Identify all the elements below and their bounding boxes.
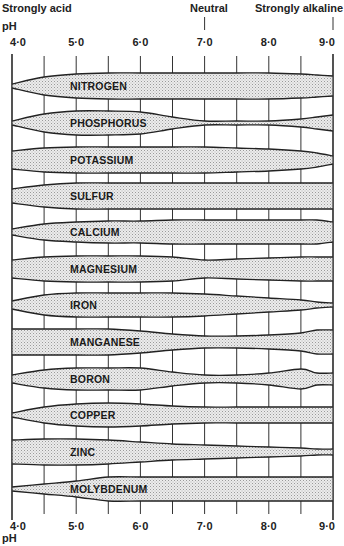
band-sulfur: SULFUR (12, 183, 333, 209)
band-label: MAGNESIUM (70, 263, 137, 275)
nutrient-availability-chart: NITROGENPHOSPHORUSPOTASSIUMSULFURCALCIUM… (0, 0, 344, 546)
band-copper: COPPER (12, 403, 333, 427)
band-label: ZINC (70, 446, 96, 458)
band-label: PHOSPHORUS (70, 117, 147, 129)
band-label: BORON (70, 373, 110, 385)
band-label: COPPER (70, 409, 116, 421)
band-label: IRON (70, 299, 97, 311)
band-label: MOLYBDENUM (70, 483, 148, 495)
band-magnesium: MAGNESIUM (12, 256, 333, 282)
band-potassium: POTASSIUM (12, 147, 333, 173)
band-calcium: CALCIUM (12, 220, 333, 244)
band-label: POTASSIUM (70, 154, 133, 166)
band-label: NITROGEN (70, 80, 127, 92)
band-label: SULFUR (70, 190, 114, 202)
band-nitrogen: NITROGEN (12, 73, 333, 99)
band-label: CALCIUM (70, 226, 120, 238)
band-label: MANGANESE (70, 336, 140, 348)
band-iron: IRON (12, 293, 333, 317)
band-molybdenum: MOLYBDENUM (12, 477, 333, 502)
